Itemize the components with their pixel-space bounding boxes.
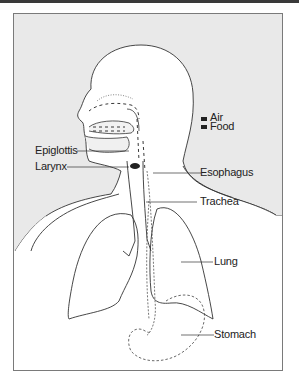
legend-swatch-air bbox=[201, 117, 207, 121]
label-larynx: Larynx bbox=[35, 160, 67, 172]
label-lung: Lung bbox=[214, 255, 238, 267]
label-trachea: Trachea bbox=[200, 195, 239, 207]
legend-label-food: Food bbox=[210, 120, 234, 132]
label-esophagus: Esophagus bbox=[200, 166, 253, 178]
legend-swatch-food bbox=[201, 125, 207, 129]
top-bar bbox=[0, 0, 299, 3]
diagram-frame: Air Food Epiglottis Larynx Esophagus Tra… bbox=[13, 13, 283, 371]
label-stomach: Stomach bbox=[214, 328, 256, 340]
anatomy-illustration bbox=[14, 14, 283, 371]
label-epiglottis: Epiglottis bbox=[35, 144, 78, 156]
